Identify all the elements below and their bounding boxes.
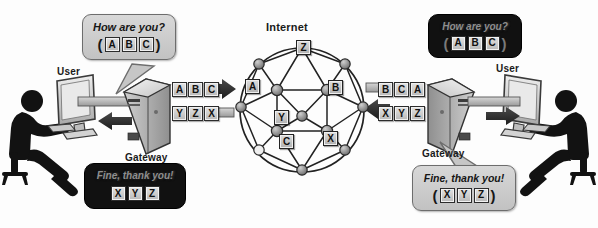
speech-bubble-bottom-left: Fine, thank you! X Y Z bbox=[84, 163, 186, 209]
cloud-packet-y: Y bbox=[274, 110, 289, 125]
tile-c: C bbox=[485, 36, 500, 51]
cloud-packet-b: B bbox=[328, 80, 343, 95]
cloud-nodes bbox=[236, 43, 368, 175]
tile-c: C bbox=[204, 82, 219, 97]
gateway-left-tower bbox=[124, 79, 170, 154]
bubble-text-top-left: How are you? bbox=[93, 22, 165, 33]
arrow-to-user-left bbox=[98, 112, 132, 130]
bubble-tiles-bottom-left: X Y Z bbox=[109, 186, 162, 201]
tile-z: Z bbox=[145, 186, 160, 201]
gateway-right-inbound-tiles: B C A bbox=[378, 82, 425, 97]
cloud-packet-x: X bbox=[323, 131, 338, 146]
tile-z: Z bbox=[410, 106, 425, 121]
tile-c: C bbox=[394, 82, 409, 97]
tile-y: Y bbox=[394, 106, 409, 121]
gateway-left-inbound-tiles: Y Z X bbox=[172, 106, 219, 121]
internet-label: Internet bbox=[266, 21, 308, 33]
cloud-packet-c: C bbox=[279, 134, 294, 149]
bubble-tiles-bottom-right: ( X Y Z ) bbox=[433, 188, 496, 203]
open-paren: ( bbox=[444, 36, 449, 51]
cloud-packet-z: Z bbox=[296, 40, 311, 55]
tile-a: A bbox=[410, 82, 425, 97]
bubble-tiles-top-right: ( A B C ) bbox=[444, 36, 507, 51]
gateway-right-label: Gateway bbox=[422, 148, 465, 159]
tile-c: C bbox=[139, 37, 154, 52]
gateway-right-outbound-tiles: X Y Z bbox=[378, 106, 425, 121]
tile-b: B bbox=[378, 82, 393, 97]
internet-cloud bbox=[236, 43, 368, 175]
tile-y: Y bbox=[172, 106, 187, 121]
speech-bubble-bottom-right: Fine, thank you! ( X Y Z ) bbox=[412, 165, 516, 211]
tile-x: X bbox=[204, 106, 219, 121]
network-encryption-diagram: Internet User User Gateway Gateway How a… bbox=[0, 0, 598, 228]
bubble-text-bottom-left: Fine, thank you! bbox=[97, 171, 174, 181]
tile-y: Y bbox=[457, 188, 472, 203]
tile-a: A bbox=[451, 36, 466, 51]
tile-y: Y bbox=[128, 186, 143, 201]
tile-a: A bbox=[105, 37, 120, 52]
tile-b: B bbox=[468, 36, 483, 51]
tile-x: X bbox=[378, 106, 393, 121]
user-left-label: User bbox=[57, 66, 80, 77]
tile-z: Z bbox=[188, 106, 203, 121]
open-paren: ( bbox=[433, 188, 438, 203]
close-paren: ) bbox=[502, 36, 507, 51]
tile-x: X bbox=[440, 188, 455, 203]
user-right-label: User bbox=[496, 63, 519, 74]
close-paren: ) bbox=[156, 37, 161, 52]
bubble-text-bottom-right: Fine, thank you! bbox=[424, 173, 505, 184]
gateway-right-link bbox=[468, 97, 520, 125]
bubble-text-top-right: How are you? bbox=[442, 22, 508, 32]
user-right-monitor bbox=[501, 75, 550, 139]
tile-x: X bbox=[111, 186, 126, 201]
tile-b: B bbox=[188, 82, 203, 97]
open-paren: ( bbox=[98, 37, 103, 52]
tile-b: B bbox=[122, 37, 137, 52]
bubble-tiles-top-left: ( A B C ) bbox=[98, 37, 161, 52]
speech-bubble-top-left: How are you? ( A B C ) bbox=[82, 14, 176, 60]
gateway-left-label: Gateway bbox=[125, 152, 168, 163]
gateway-left-outbound-tiles: A B C bbox=[172, 82, 219, 97]
cloud-packet-a: A bbox=[245, 79, 260, 94]
tile-z: Z bbox=[474, 188, 489, 203]
tile-a: A bbox=[172, 82, 187, 97]
user-left-monitor bbox=[48, 75, 97, 139]
gateway-right-tower bbox=[428, 79, 474, 154]
close-paren: ) bbox=[491, 188, 496, 203]
speech-bubble-top-right: How are you? ( A B C ) bbox=[428, 14, 522, 58]
